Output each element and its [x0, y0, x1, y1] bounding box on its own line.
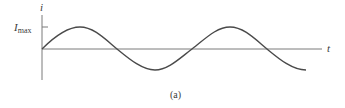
imax-label: Imax: [13, 21, 31, 35]
sinusoid-figure: i Imax t (a): [0, 0, 345, 108]
x-axis-label: t: [327, 42, 331, 54]
figure-caption: (a): [170, 89, 181, 101]
y-axis-label: i: [40, 1, 43, 13]
imax-sub: max: [18, 26, 32, 35]
